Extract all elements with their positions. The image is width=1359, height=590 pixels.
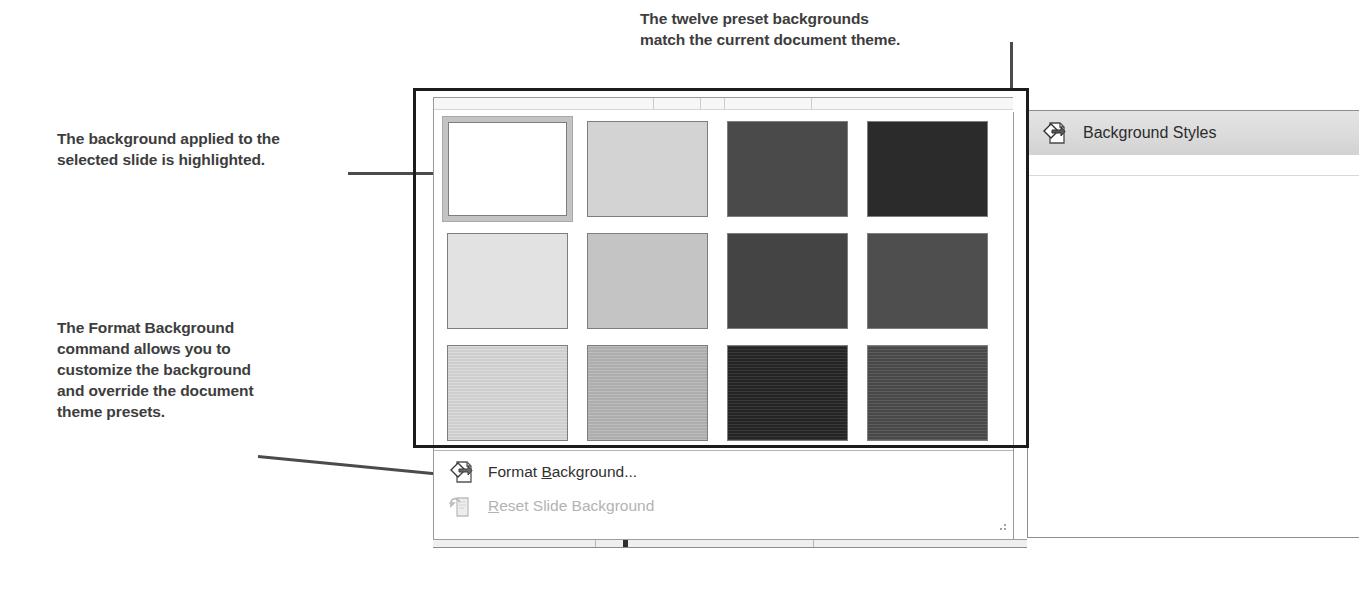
swatch-cell-style-10[interactable] xyxy=(582,340,713,446)
leader-line-top xyxy=(1010,42,1013,90)
swatch-cell-style-1[interactable] xyxy=(442,116,573,222)
dropdown-menu-section: Format Background... Reset Slide Backgro… xyxy=(434,450,1013,539)
panel-bottom-divider xyxy=(595,540,596,547)
resize-grip[interactable] xyxy=(997,524,1006,533)
background-styles-dropdown: Format Background... Reset Slide Backgro… xyxy=(433,97,1014,539)
panel-bottom-strip xyxy=(433,539,1027,548)
background-styles-label: Background Styles xyxy=(1083,124,1216,142)
swatch-style-6[interactable] xyxy=(587,233,708,329)
swatch-cell-style-4[interactable] xyxy=(862,116,993,222)
swatch-row xyxy=(442,228,1005,334)
menu-item-reset-slide-background-label: Reset Slide Background xyxy=(488,497,654,515)
swatch-cell-style-6[interactable] xyxy=(582,228,713,334)
panel-separator xyxy=(1028,175,1359,176)
swatch-row xyxy=(442,340,1005,446)
swatch-cell-style-9[interactable] xyxy=(442,340,573,446)
swatch-style-1[interactable] xyxy=(448,122,567,216)
swatch-style-3[interactable] xyxy=(727,121,848,217)
background-styles-button[interactable]: Background Styles xyxy=(1028,111,1359,155)
ribbon-panel: Background Styles xyxy=(1027,110,1359,538)
paint-bucket-page-icon xyxy=(448,459,474,485)
callout-top-text: The twelve preset backgrounds match the … xyxy=(640,8,900,50)
panel-gutter xyxy=(1013,97,1029,112)
swatch-style-10[interactable] xyxy=(587,345,708,441)
callout-format-background-text: The Format Background command allows you… xyxy=(57,317,253,422)
swatch-cell-style-7[interactable] xyxy=(722,228,853,334)
menu-item-format-background[interactable]: Format Background... xyxy=(434,455,1013,489)
swatch-style-8[interactable] xyxy=(867,233,988,329)
swatch-cell-style-12[interactable] xyxy=(862,340,993,446)
swatch-style-12[interactable] xyxy=(867,345,988,441)
swatch-style-11[interactable] xyxy=(727,345,848,441)
callout-selected-background-text: The background applied to the selected s… xyxy=(57,128,280,170)
swatch-style-4[interactable] xyxy=(867,121,988,217)
undo-page-icon xyxy=(448,493,474,519)
swatch-cell-style-5[interactable] xyxy=(442,228,573,334)
swatch-style-2[interactable] xyxy=(587,121,708,217)
swatch-style-5[interactable] xyxy=(447,233,568,329)
swatch-style-7[interactable] xyxy=(727,233,848,329)
menu-item-reset-slide-background[interactable]: Reset Slide Background xyxy=(434,489,1013,523)
panel-bottom-divider xyxy=(813,540,814,547)
swatch-row xyxy=(442,116,1005,222)
swatch-style-9[interactable] xyxy=(447,345,568,441)
swatch-cell-style-3[interactable] xyxy=(722,116,853,222)
swatch-cell-style-11[interactable] xyxy=(722,340,853,446)
paint-bucket-page-icon xyxy=(1041,120,1067,146)
swatch-cell-style-8[interactable] xyxy=(862,228,993,334)
menu-item-format-background-label: Format Background... xyxy=(488,463,637,481)
gallery-top-strip xyxy=(434,98,1013,110)
swatch-cell-style-2[interactable] xyxy=(582,116,713,222)
panel-bottom-tick xyxy=(623,540,628,547)
background-styles-gallery xyxy=(434,110,1013,448)
